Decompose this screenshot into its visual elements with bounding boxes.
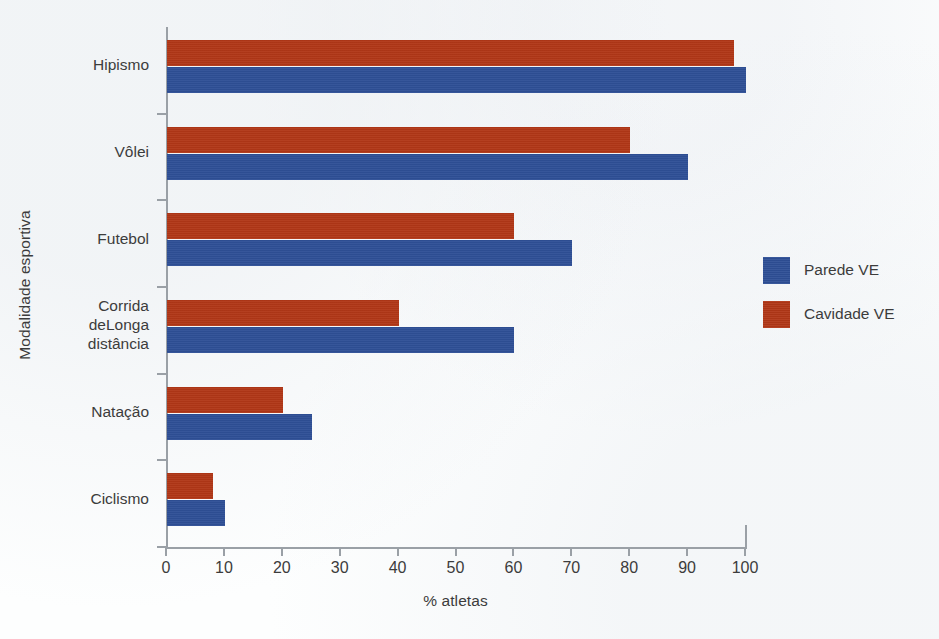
bar-cavidade-ve [167, 473, 213, 499]
x-tick-label: 40 [389, 559, 407, 577]
bar-cavidade-ve [167, 40, 734, 66]
x-tick [223, 547, 225, 556]
x-tick [744, 547, 746, 556]
chart-figure: Modalidade esportiva 0102030405060708090… [0, 0, 939, 639]
legend-item: Cavidade VE [763, 292, 894, 336]
x-tick [397, 547, 399, 556]
category-label: Vôlei [0, 142, 149, 161]
y-tick [157, 286, 166, 288]
x-tick [628, 547, 630, 556]
legend-label: Parede VE [804, 261, 879, 279]
x-tick-label: 70 [562, 559, 580, 577]
x-tick-label: 80 [620, 559, 638, 577]
x-axis-line [166, 547, 747, 549]
red-swatch-icon [763, 301, 790, 328]
x-tick-label: 50 [447, 559, 465, 577]
plot-area: 0102030405060708090100 HipismoVôleiFuteb… [166, 27, 745, 547]
category-label: Corrida deLonga distância [0, 296, 149, 353]
bar-cavidade-ve [167, 213, 514, 239]
chart-legend: Parede VECavidade VE [763, 248, 894, 336]
x-tick [165, 547, 167, 556]
legend-item: Parede VE [763, 248, 894, 292]
x-tick-label: 100 [732, 559, 759, 577]
x-tick [455, 547, 457, 556]
y-tick [157, 546, 166, 548]
x-tick [281, 547, 283, 556]
x-tick [570, 547, 572, 556]
category-label: Futebol [0, 228, 149, 247]
bar-parede-ve [167, 67, 746, 93]
bar-parede-ve [167, 240, 572, 266]
blue-swatch-icon [763, 257, 790, 284]
y-tick [157, 373, 166, 375]
x-tick-label: 30 [331, 559, 349, 577]
x-axis-right-cap [745, 525, 747, 549]
y-tick [157, 459, 166, 461]
category-label: Ciclismo [0, 488, 149, 507]
x-tick-label: 90 [678, 559, 696, 577]
x-tick-label: 20 [273, 559, 291, 577]
bar-parede-ve [167, 414, 312, 440]
bar-parede-ve [167, 154, 688, 180]
x-tick [512, 547, 514, 556]
x-tick [339, 547, 341, 556]
y-tick [157, 113, 166, 115]
legend-label: Cavidade VE [804, 305, 894, 323]
bar-cavidade-ve [167, 300, 399, 326]
bar-cavidade-ve [167, 127, 630, 153]
x-tick-label: 0 [162, 559, 171, 577]
category-label: Natação [0, 402, 149, 421]
x-tick-label: 10 [215, 559, 233, 577]
x-axis-title: % atletas [166, 592, 745, 610]
y-axis-line [166, 27, 168, 547]
bar-parede-ve [167, 500, 225, 526]
x-tick [686, 547, 688, 556]
category-label: Hipismo [0, 55, 149, 74]
x-tick-label: 60 [504, 559, 522, 577]
bar-cavidade-ve [167, 387, 283, 413]
y-tick [157, 199, 166, 201]
bar-parede-ve [167, 327, 514, 353]
